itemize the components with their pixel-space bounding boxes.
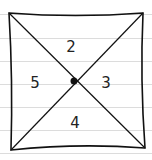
region-label-bottom: 4 [70, 114, 80, 132]
region-label-right: 3 [101, 74, 111, 92]
region-label-left: 5 [30, 74, 40, 92]
center-dot [71, 78, 78, 85]
region-label-top: 2 [66, 38, 76, 56]
square-diagram: 2 3 4 5 [0, 0, 152, 160]
